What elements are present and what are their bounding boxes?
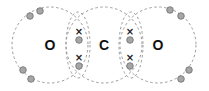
electron-dot-icon xyxy=(178,76,185,83)
diagram-canvas: O C O × × × × xyxy=(0,0,209,91)
electron-dot-icon xyxy=(27,13,34,20)
electron-dot-icon xyxy=(28,76,35,83)
electron-dot-icon xyxy=(127,37,134,44)
atom-label-carbon: C xyxy=(99,37,109,53)
electron-dot-icon xyxy=(76,37,83,44)
electron-dot-icon xyxy=(37,8,44,15)
electron-dot-icon xyxy=(20,67,27,74)
cross-electron-icon: × xyxy=(126,26,134,37)
electron-dot-icon xyxy=(178,13,185,20)
cross-electron-icon: × xyxy=(126,52,134,63)
atom-label-left-oxygen: O xyxy=(45,37,56,53)
cross-electron-icon: × xyxy=(75,52,83,63)
cross-electron-icon: × xyxy=(75,26,83,37)
co2-dot-cross-diagram: O C O × × × × xyxy=(0,0,209,91)
electron-dot-icon xyxy=(76,63,83,70)
atom-label-right-oxygen: O xyxy=(153,37,164,53)
electron-dot-icon xyxy=(167,7,174,14)
electron-dot-icon xyxy=(186,67,193,74)
electron-dot-icon xyxy=(127,63,134,70)
